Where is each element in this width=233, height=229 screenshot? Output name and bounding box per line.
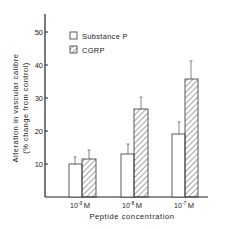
- legend-swatch-substance-p: [70, 32, 77, 39]
- bar-group-1e-8: [121, 97, 148, 197]
- bar-cgrp: [82, 159, 96, 197]
- bar-cgrp: [185, 79, 198, 197]
- bar-substance-p: [121, 154, 134, 197]
- svg-text:(% change from control): (% change from control): [21, 62, 30, 154]
- legend-swatch-cgrp: [70, 46, 77, 53]
- svg-text:40: 40: [35, 61, 43, 70]
- bar-cgrp: [134, 109, 148, 197]
- svg-text:10: 10: [35, 160, 43, 169]
- x-axis-label: Peptide concentration: [89, 212, 174, 221]
- svg-text:10-8M: 10-8M: [122, 200, 142, 210]
- bar-substance-p: [172, 134, 185, 197]
- svg-text:Substance P: Substance P: [82, 32, 128, 41]
- bar-substance-p: [69, 164, 82, 197]
- y-ticks: 10 20 30 40 50: [35, 28, 48, 169]
- svg-text:50: 50: [35, 28, 43, 37]
- y-axis-label: Alteration in vascular calibre (% change…: [11, 54, 30, 163]
- svg-text:10-7M: 10-7M: [174, 200, 194, 210]
- svg-text:30: 30: [35, 94, 43, 103]
- bar-group-1e-9: [69, 150, 96, 197]
- bar-group-1e-7: [172, 61, 198, 197]
- legend: Substance P CGRP: [70, 32, 128, 55]
- bar-chart: 10 20 30 40 50 Alteration in vascular ca…: [0, 0, 233, 229]
- svg-text:10-9M: 10-9M: [70, 200, 90, 210]
- x-tick-labels: 10-9M 10-8M 10-7M: [70, 200, 194, 210]
- svg-text:Alteration in vascular calibre: Alteration in vascular calibre: [11, 54, 20, 163]
- svg-text:20: 20: [35, 127, 43, 136]
- svg-text:CGRP: CGRP: [82, 46, 105, 55]
